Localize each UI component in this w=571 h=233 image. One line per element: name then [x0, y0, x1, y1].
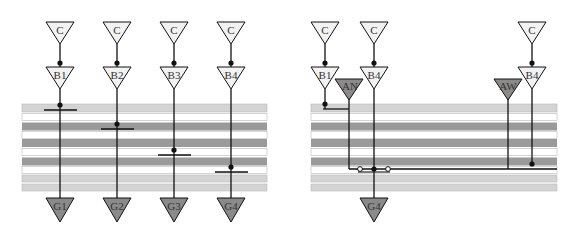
band-dark: [22, 158, 267, 166]
open-contact: [358, 167, 363, 172]
gate-label: G4: [224, 200, 238, 212]
band-light: [311, 175, 557, 182]
band-white: [22, 114, 267, 121]
band-white: [311, 114, 557, 121]
buffer-label: B2: [111, 69, 124, 81]
left-column-3: C B3 G3: [158, 22, 191, 222]
band-dark: [311, 158, 557, 166]
buffer-label: B1: [54, 69, 67, 81]
band-light: [311, 104, 557, 112]
buffer-label: B1: [319, 69, 332, 81]
buffer-label: B4: [368, 69, 381, 81]
buffer-label: B4: [526, 69, 539, 81]
right-triangles: C C C B1 B4 B4 AN AW G4: [311, 22, 546, 222]
buffer-label: B4: [225, 69, 238, 81]
clock-label: C: [56, 24, 63, 36]
clock-label: C: [170, 24, 177, 36]
left-column-2: C B2 G2: [101, 22, 134, 222]
band-light: [22, 175, 267, 182]
band-dark: [22, 123, 267, 131]
junction-dot: [371, 166, 376, 171]
band-white: [22, 132, 267, 139]
left-column-1: C B1 G1: [44, 22, 77, 222]
band-dark: [22, 139, 267, 147]
gate-label: G3: [167, 200, 181, 212]
open-contact: [386, 167, 391, 172]
clock-label: C: [113, 24, 120, 36]
band-dark: [311, 139, 557, 147]
buffer-label: B3: [168, 69, 181, 81]
clock-label: C: [370, 24, 377, 36]
band-white: [311, 149, 557, 156]
clock-label: C: [227, 24, 234, 36]
band-white: [22, 149, 267, 156]
arbiter-label: AN: [342, 80, 358, 92]
clock-label: C: [528, 24, 535, 36]
clock-tree-diagram: C B1 G1 C B2 G2 C B3 G3: [0, 0, 571, 233]
left-band-stack: [22, 104, 267, 191]
band-white: [311, 167, 557, 174]
band-light: [22, 184, 267, 191]
gate-label: G2: [110, 200, 123, 212]
gate-label: G4: [367, 200, 381, 212]
arbiter-label: AW: [499, 80, 517, 92]
right-band-stack: [311, 104, 557, 191]
left-column-4: C B4 G4: [215, 22, 248, 222]
band-white: [311, 132, 557, 139]
clock-label: C: [321, 24, 328, 36]
band-dark: [311, 123, 557, 131]
band-light: [311, 184, 557, 191]
gate-label: G1: [53, 200, 66, 212]
